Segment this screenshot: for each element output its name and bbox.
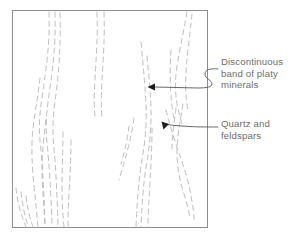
annotation-line: Quartz and	[221, 118, 270, 130]
annotation-line: minerals	[221, 79, 283, 91]
annotation-line: feldspars	[221, 130, 270, 142]
diagram-frame	[13, 11, 208, 228]
annotation-label-quartz-feldspars: Quartz and feldspars	[221, 118, 270, 141]
annotation-label-discontinuous-band: Discontinuous band of platy minerals	[221, 56, 283, 91]
annotation-line: Discontinuous	[221, 56, 283, 68]
geology-texture-figure: Discontinuous band of platy minerals Qua…	[0, 0, 298, 238]
annotation-line: band of platy	[221, 68, 283, 80]
